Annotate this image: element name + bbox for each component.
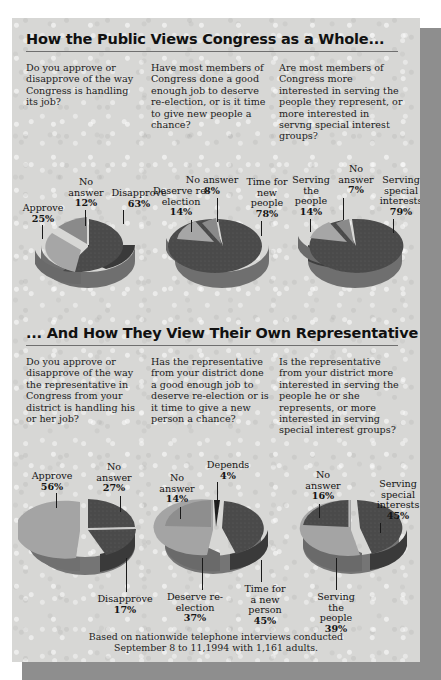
question-2-1: Do you approve or disapprove of the way … (26, 356, 144, 424)
question-1-2: Have most members of Congress done a goo… (151, 62, 269, 130)
pie1-label-approve: Approve 25% (16, 203, 70, 224)
section-1-title: How the Public Views Congress as a Whole… (26, 31, 384, 47)
pie5-leader-time-new-person (261, 560, 262, 582)
pie5-label-depends: Depends 4% (200, 460, 256, 481)
question-1-1: Do you approve or disapprove of the way … (26, 62, 141, 108)
section-2-rule (26, 345, 398, 346)
pie3-label-special-interests: Serving special interests 79% (374, 175, 420, 217)
pie4-label-disapprove: Disapprove 17% (92, 594, 158, 615)
pie4-leader-approve (56, 493, 57, 508)
pie4-leader-disapprove (126, 558, 127, 592)
source-note-line-2: September 8 to 11,1994 with 1,161 adults… (12, 642, 420, 653)
infographic-root: How the Public Views Congress as a Whole… (0, 0, 441, 680)
infographic-panel: How the Public Views Congress as a Whole… (12, 18, 420, 662)
pie4-leader-no-answer (120, 496, 121, 512)
pie2-label-time-new: Time for new people 78% (241, 177, 293, 219)
pie6-leader-no-answer (319, 504, 320, 518)
pie6-leader-serving-people (336, 558, 337, 590)
pie6-label-serving-people: Serving the people 39% (312, 592, 360, 634)
pie5-leader-depends (217, 482, 218, 504)
pie4-label-no-answer: No answer 27% (91, 462, 137, 494)
pie5-label-deserve: Deserve re- election 37% (160, 592, 230, 624)
pie3-leader-serving-people (310, 219, 311, 232)
pie3-label-serving-people: Serving the people 14% (287, 175, 335, 217)
pie6-label-special-interests: Serving special interests 45% (370, 479, 420, 521)
pie2-label-deserve: Deserve re- election 14% (150, 186, 212, 218)
pie1-label-no-answer: No answer 12% (64, 177, 108, 209)
pie1-leader-no-answer (85, 210, 86, 226)
pie2-leader-deserve (191, 220, 192, 232)
pie5-label-no-answer: No answer 14% (155, 473, 199, 505)
pie5-leader-no-answer (180, 507, 181, 519)
pie3-leader-no-answer (343, 198, 344, 220)
question-1-3: Are most members of Congress more intere… (279, 62, 403, 142)
pie3-leader-special-interests (393, 219, 394, 233)
pie5-leader-deserve (202, 558, 203, 590)
pie2-leader-time-new (261, 221, 262, 236)
source-note-line-1: Based on nationwide telephone interviews… (12, 631, 420, 642)
question-2-3: Is the representative from your district… (279, 356, 403, 436)
pie1-leader-disapprove (123, 210, 124, 224)
section-2-title: ... And How They View Their Own Represen… (26, 325, 418, 341)
pie3-label-no-answer: No answer 7% (334, 164, 378, 196)
pie2-leader-no-answer (217, 198, 218, 222)
pie1-leader-approve (42, 225, 43, 239)
question-2-2: Has the representative from your distric… (151, 356, 271, 424)
pie5-label-time-new-person: Time for a new person 45% (240, 584, 290, 626)
pie4-label-approve: Approve 56% (24, 471, 80, 492)
section-1-rule (26, 51, 398, 52)
pie6-leader-special-interests (380, 523, 381, 533)
pie6-label-no-answer: No answer 16% (301, 470, 345, 502)
